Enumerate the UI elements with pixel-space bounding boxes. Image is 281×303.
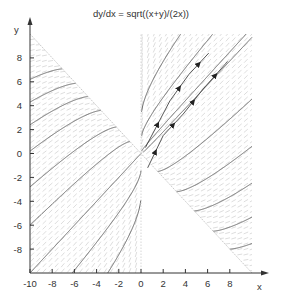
- svg-text:2: 2: [17, 124, 22, 135]
- svg-text:-8: -8: [48, 278, 56, 289]
- svg-text:-8: -8: [14, 244, 22, 255]
- x-axis-label: x: [257, 281, 262, 292]
- svg-text:8: 8: [227, 278, 232, 289]
- svg-text:-4: -4: [92, 278, 100, 289]
- svg-text:-2: -2: [14, 172, 22, 183]
- y-axis-label: y: [14, 24, 19, 35]
- svg-text:-2: -2: [115, 278, 123, 289]
- svg-text:4: 4: [17, 100, 22, 111]
- svg-text:8: 8: [17, 52, 22, 63]
- svg-text:-10: -10: [23, 278, 37, 289]
- svg-text:0: 0: [17, 148, 22, 159]
- svg-text:6: 6: [205, 278, 210, 289]
- chart-plot: dy/dx = sqrt((x+y)/(2x)) -10-8-6-4-20246…: [0, 0, 281, 303]
- chart-title: dy/dx = sqrt((x+y)/(2x)): [93, 8, 189, 19]
- svg-text:-6: -6: [14, 220, 22, 231]
- svg-text:4: 4: [183, 278, 188, 289]
- svg-text:6: 6: [17, 76, 22, 87]
- svg-text:2: 2: [161, 278, 166, 289]
- svg-text:0: 0: [138, 278, 143, 289]
- svg-text:-4: -4: [14, 196, 22, 207]
- svg-text:-6: -6: [70, 278, 78, 289]
